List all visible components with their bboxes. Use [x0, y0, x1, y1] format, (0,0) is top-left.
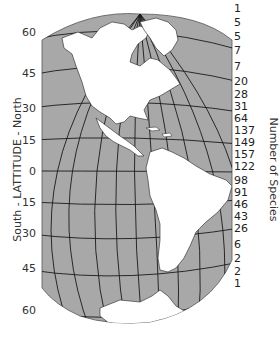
species-count: 1 [234, 278, 241, 290]
species-count: 122 [234, 161, 255, 173]
lat-label-60n: 60 [14, 26, 36, 39]
species-count: 5 [234, 17, 241, 29]
lat-label-45s: 45 [14, 262, 36, 275]
species-count: 26 [234, 223, 248, 235]
species-count: 2 [234, 253, 241, 265]
lat-label-45n: 45 [14, 67, 36, 80]
y-axis-label: South - LATTITUDE - North [11, 95, 24, 245]
species-count: 20 [234, 76, 248, 88]
y2-axis-label: Number of Species [267, 95, 280, 245]
species-count: 7 [234, 45, 241, 57]
species-count: 1 [234, 3, 241, 15]
species-count: 5 [234, 31, 241, 43]
species-count: 6 [234, 239, 241, 251]
species-count: 7 [234, 61, 241, 73]
lat-label-60s: 60 [14, 304, 36, 317]
